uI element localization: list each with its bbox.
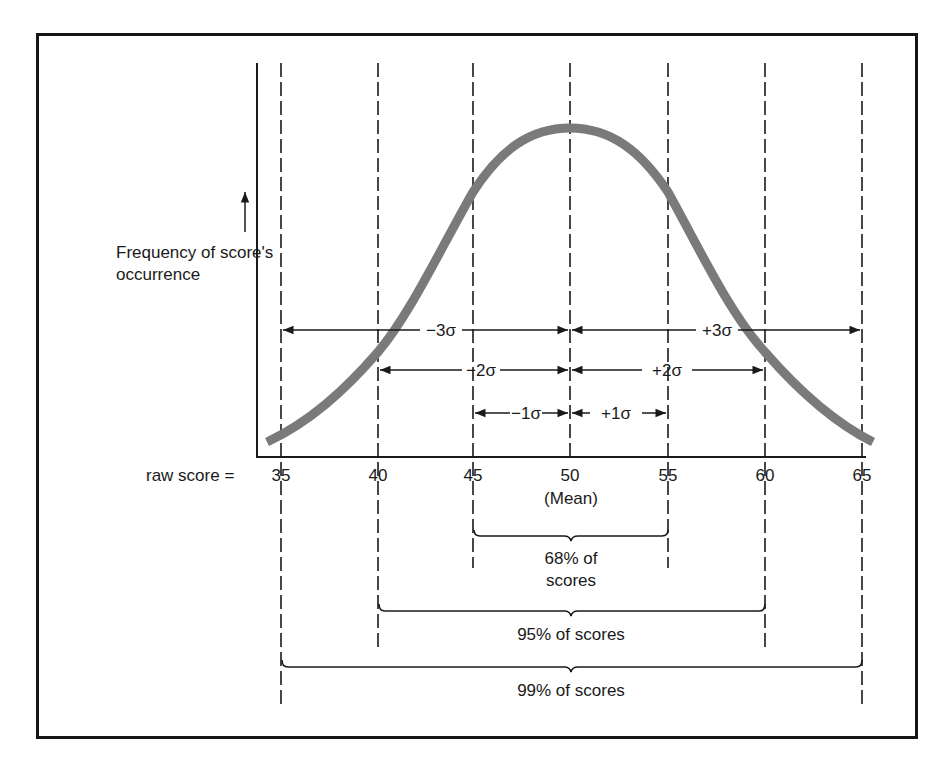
tick-55: 55 <box>659 466 678 485</box>
brace-68 <box>474 530 668 541</box>
sigma-guide-lines <box>281 63 862 705</box>
y-axis-label-line1: Frequency of score's <box>116 243 273 262</box>
tick-40: 40 <box>369 466 388 485</box>
tick-45: 45 <box>464 466 483 485</box>
y-axis-label-line2: occurrence <box>116 265 200 284</box>
minus1-sigma-label: −1σ <box>511 404 541 423</box>
normal-distribution-diagram: −3σ +3σ −2σ +2σ −1σ +1σ Frequency of sco… <box>0 0 947 766</box>
tick-35: 35 <box>272 466 291 485</box>
range-99-label: 99% of scores <box>517 681 625 700</box>
brace-95 <box>379 604 765 616</box>
minus2-sigma-label: −2σ <box>466 361 496 380</box>
plus3-sigma-label: +3σ <box>702 321 732 340</box>
tick-50: 50 <box>561 466 580 485</box>
x-axis-prefix: raw score = <box>146 466 234 485</box>
tick-65: 65 <box>853 466 872 485</box>
range-68-label-line1: 68% of <box>545 549 598 568</box>
brace-99 <box>282 660 862 672</box>
plus2-sigma-label: +2σ <box>652 361 682 380</box>
tick-60: 60 <box>756 466 775 485</box>
range-68-label-line2: scores <box>546 571 596 590</box>
plus1-sigma-label: +1σ <box>601 404 631 423</box>
range-95-label: 95% of scores <box>517 625 625 644</box>
mean-label: (Mean) <box>544 489 598 508</box>
minus3-sigma-label: −3σ <box>426 321 456 340</box>
